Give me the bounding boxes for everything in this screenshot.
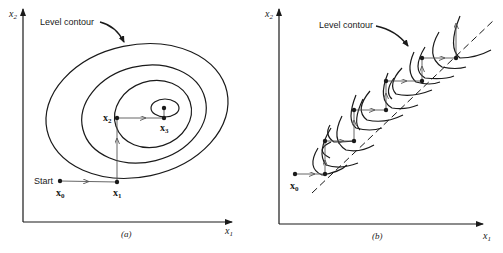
point-x0 bbox=[58, 179, 62, 183]
label-x2: x2 bbox=[103, 112, 112, 125]
point-x2 bbox=[115, 116, 119, 120]
x-axis-label-b: x1 bbox=[482, 230, 491, 243]
contour-label-b: Level contour bbox=[319, 20, 373, 30]
step-x0-x1 bbox=[60, 181, 117, 182]
contour-pointer-arrow-a bbox=[100, 22, 124, 42]
point-x1 bbox=[115, 180, 119, 184]
caption-a: (a) bbox=[121, 229, 132, 239]
start-label: Start bbox=[34, 176, 54, 186]
coordinate-steps bbox=[295, 25, 456, 174]
contour-inner bbox=[106, 71, 201, 158]
label-x0: x0 bbox=[56, 187, 65, 200]
panel-a: x2 x1 Level contour Start x0 x1 x2 x3 (a… bbox=[8, 8, 241, 239]
point-x3 bbox=[162, 116, 166, 120]
caption-b: (b) bbox=[372, 231, 383, 241]
figure: x2 x1 Level contour Start x0 x1 x2 x3 (a… bbox=[0, 0, 503, 253]
label-x3: x3 bbox=[160, 122, 169, 135]
label-x1: x1 bbox=[113, 187, 122, 200]
point-minimum bbox=[162, 106, 166, 110]
label-x0-b: x0 bbox=[290, 180, 299, 193]
y-axis-label-b: x2 bbox=[264, 8, 273, 21]
x-axis-label: x1 bbox=[224, 225, 233, 238]
step-arrowheads bbox=[306, 26, 456, 174]
contour-outer bbox=[33, 27, 240, 194]
contour-label-a: Level contour bbox=[40, 17, 94, 27]
iterate-points bbox=[293, 56, 458, 176]
contour-pointer-arrow-b bbox=[376, 26, 408, 46]
y-axis-label: x2 bbox=[8, 8, 17, 21]
panel-b: x2 x1 Level contour bbox=[264, 8, 494, 243]
